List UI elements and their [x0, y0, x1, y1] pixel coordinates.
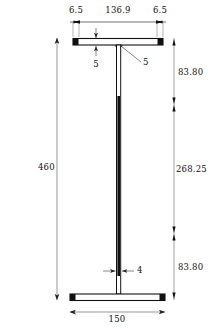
dimension-label-top-segment: 83.80 — [178, 68, 203, 77]
dimension-label-bottom-segment: 83.80 — [178, 263, 203, 272]
top-flange-left-cap — [73, 39, 79, 46]
dimension-label-bottom-width: 150 — [109, 315, 126, 324]
dimension-label-middle-segment: 268.25 — [176, 165, 207, 174]
weld-leg-leader — [122, 47, 142, 63]
dimension-label-flange-thickness: 5 — [93, 60, 99, 69]
bottom-flange — [70, 294, 165, 301]
top-dimension-chain — [70, 20, 166, 37]
dimension-label-weld-leg: 5 — [143, 58, 149, 67]
dimension-label-left-outstand: 6.5 — [69, 6, 83, 15]
dimension-label-right-outstand: 6.5 — [153, 6, 167, 15]
top-flange — [73, 39, 163, 46]
engineering-drawing: 6.5 136.9 6.5 5 5 460 83.80 268.25 83.80… — [0, 0, 208, 329]
section-outline — [70, 39, 165, 301]
bottom-flange-left-cap — [70, 294, 76, 301]
dimension-label-top-span: 136.9 — [105, 6, 130, 15]
dimension-label-web-thickness: 4 — [137, 266, 143, 275]
dimension-label-overall-depth: 460 — [38, 163, 55, 172]
web-fill — [117, 96, 120, 276]
bottom-flange-right-cap — [160, 294, 166, 301]
top-flange-right-cap — [158, 39, 164, 46]
